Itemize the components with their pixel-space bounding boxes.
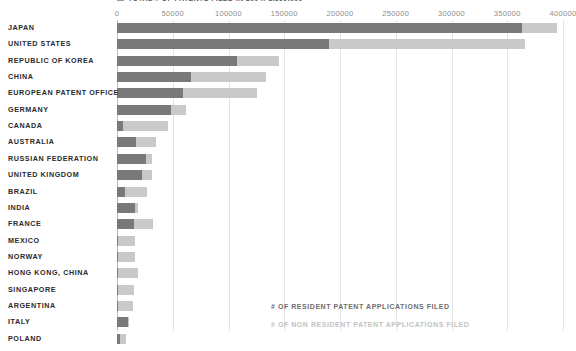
bar-row (117, 252, 135, 262)
title-swatch-icon (117, 0, 124, 1)
legend-item-resident: # OF RESIDENT PATENT APPLICATIONS FILED (271, 303, 450, 310)
bar-row (117, 219, 153, 229)
bar-row (117, 334, 126, 344)
bar-segment-nonresident (329, 39, 525, 49)
x-tick-label-100000: 100000 (215, 9, 242, 18)
category-label-italy: ITALY (8, 317, 30, 327)
bar-row (117, 301, 133, 311)
category-label-brazil: BRAZIL (8, 187, 38, 197)
x-tick-label-200000: 200000 (327, 9, 354, 18)
x-tick-label-150000: 150000 (271, 9, 298, 18)
gridline-400000 (563, 20, 564, 331)
bar-segment-nonresident (142, 170, 152, 180)
category-label-republic-of-korea: REPUBLIC OF KOREA (8, 56, 94, 66)
gridline-100000 (229, 20, 230, 331)
category-label-india: INDIA (8, 203, 30, 213)
x-tick-label-0: 0 (115, 9, 119, 18)
x-tick-label-50000: 50000 (162, 9, 184, 18)
bar-segment-nonresident (118, 301, 133, 311)
bar-row (117, 88, 257, 98)
bar-segment-nonresident (118, 236, 135, 246)
category-label-poland: POLAND (8, 334, 42, 344)
category-label-france: FRANCE (8, 219, 41, 229)
category-label-european-patent-office: EUROPEAN PATENT OFFICE (8, 88, 119, 98)
bar-segment-nonresident (522, 23, 558, 33)
bar-row (117, 236, 135, 246)
bar-row (117, 187, 147, 197)
bar-row (117, 137, 156, 147)
bar-segment-resident (117, 137, 136, 147)
bar-segment-resident (117, 23, 522, 33)
bar-row (117, 268, 138, 278)
category-label-china: CHINA (8, 72, 34, 82)
category-label-norway: NORWAY (8, 252, 43, 262)
bar-segment-nonresident (118, 285, 134, 295)
bar-segment-nonresident (237, 56, 278, 66)
bar-row (117, 285, 134, 295)
x-tick-label-250000: 250000 (382, 9, 409, 18)
bar-row (117, 23, 557, 33)
bar-segment-resident (117, 154, 146, 164)
bar-segment-nonresident (136, 137, 156, 147)
gridline-250000 (396, 20, 397, 331)
bar-segment-resident (117, 219, 134, 229)
x-tick-label-400000: 400000 (550, 9, 576, 18)
bar-row (117, 105, 186, 115)
bar-segment-nonresident (135, 203, 138, 213)
bar-row (117, 72, 266, 82)
gridline-200000 (340, 20, 341, 331)
category-label-hong-kong-china: HONG KONG, CHINA (8, 268, 89, 278)
bar-segment-nonresident (123, 121, 169, 131)
bar-segment-resident (117, 105, 171, 115)
bar-row (117, 154, 152, 164)
bar-segment-resident (117, 317, 128, 327)
bar-segment-resident (117, 187, 125, 197)
bar-segment-nonresident (128, 317, 129, 327)
gridline-350000 (507, 20, 508, 331)
gridline-150000 (284, 20, 285, 331)
bar-row (117, 170, 152, 180)
category-label-mexico: MEXICO (8, 236, 40, 246)
gridline-300000 (452, 20, 453, 331)
x-tick-label-350000: 350000 (494, 9, 521, 18)
gridline-50000 (173, 20, 174, 331)
bar-segment-resident (117, 170, 142, 180)
category-label-russian-federation: RUSSIAN FEDERATION (8, 154, 98, 164)
category-label-united-states: UNITED STATES (8, 39, 71, 49)
bar-row (117, 39, 525, 49)
category-label-singapore: SINGAPORE (8, 285, 56, 295)
category-label-canada: CANADA (8, 121, 42, 131)
bar-row (117, 56, 279, 66)
bar-segment-resident (117, 39, 329, 49)
bar-row (117, 317, 129, 327)
bar-row (117, 203, 138, 213)
legend-item-nonresident: # OF NON RESIDENT PATENT APPLICATIONS FI… (271, 321, 469, 328)
bar-segment-nonresident (118, 268, 138, 278)
bar-segment-nonresident (134, 219, 153, 229)
category-label-australia: AUSTRALIA (8, 137, 54, 147)
chart-title: TOTAL # OF PATENTS FILED IN 2004: 1,599,… (117, 0, 303, 1)
bar-row (117, 121, 168, 131)
bar-segment-nonresident (146, 154, 152, 164)
x-axis-tick-labels: 0500001000001500002000002500003000003500… (117, 9, 570, 20)
bar-segment-nonresident (183, 88, 258, 98)
category-label-germany: GERMANY (8, 105, 49, 115)
bar-segment-nonresident (120, 334, 126, 344)
bar-segment-nonresident (118, 252, 135, 262)
bar-segment-resident (117, 203, 135, 213)
bar-segment-resident (117, 56, 237, 66)
category-label-japan: JAPAN (8, 23, 35, 33)
plot-area (117, 20, 563, 331)
category-label-united-kingdom: UNITED KINGDOM (8, 170, 79, 180)
bar-segment-resident (117, 88, 183, 98)
x-tick-label-300000: 300000 (438, 9, 465, 18)
bar-segment-nonresident (125, 187, 147, 197)
category-label-argentina: ARGENTINA (8, 301, 56, 311)
bar-segment-nonresident (171, 105, 187, 115)
bar-segment-resident (117, 72, 191, 82)
bar-segment-nonresident (191, 72, 267, 82)
chart-title-text: TOTAL # OF PATENTS FILED IN 2004: 1,599,… (128, 0, 303, 1)
